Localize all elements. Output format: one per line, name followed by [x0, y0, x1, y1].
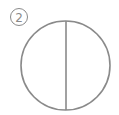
label-number: 2: [15, 11, 23, 25]
diagram-figure: 2: [0, 0, 119, 115]
circled-number-label: 2: [11, 9, 28, 26]
